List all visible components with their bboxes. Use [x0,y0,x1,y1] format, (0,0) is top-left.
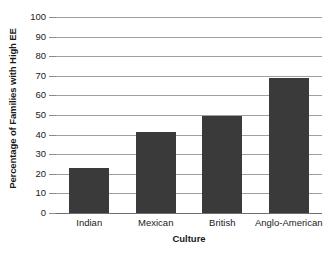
y-axis-tick-mark [49,56,56,57]
gridline [56,37,322,38]
y-axis-tick-mark [49,213,56,214]
bar [136,132,176,213]
y-axis-tick-label: 10 [20,188,46,198]
y-axis-tick-mark [49,154,56,155]
bar-chart-figure: Percentage of Families with High EE 0102… [0,0,336,260]
bar [269,78,309,213]
y-axis-tick-labels: 0102030405060708090100 [20,17,46,213]
y-axis-tick-mark [49,37,56,38]
gridline [56,76,322,77]
gridline [56,17,322,18]
y-axis-tick-mark [49,95,56,96]
axis-baseline [56,213,322,214]
y-axis-tick-label: 90 [20,32,46,42]
y-axis-tick-mark [49,174,56,175]
y-axis-tick-mark [49,17,56,18]
x-axis-tick-labels: IndianMexicanBritishAnglo-American [56,216,322,230]
y-axis-tick-label: 0 [20,208,46,218]
y-axis-tick-label: 60 [20,90,46,100]
gridline [56,56,322,57]
y-axis-tick-label: 30 [20,149,46,159]
plot-area [56,17,322,213]
y-axis-tick-label: 100 [20,12,46,22]
x-axis-tick-label: Anglo-American [250,216,329,229]
bar [69,168,109,213]
y-axis-tick-label: 50 [20,110,46,120]
y-axis-tick-label: 20 [20,169,46,179]
y-axis-tick-mark [49,193,56,194]
y-axis-tick-mark [49,76,56,77]
y-axis-tick-label: 40 [20,130,46,140]
y-axis-tick-label: 70 [20,71,46,81]
y-axis-tick-label: 80 [20,51,46,61]
bar [202,116,242,213]
x-axis-title: Culture [56,233,322,245]
y-axis-tick-mark [49,135,56,136]
y-axis-tick-mark [49,115,56,116]
